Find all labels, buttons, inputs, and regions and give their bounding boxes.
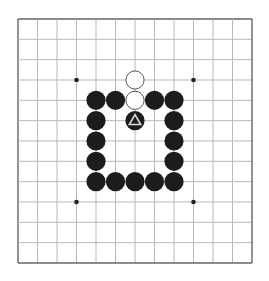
- black-stone: [145, 91, 164, 110]
- white-stone: [126, 91, 144, 109]
- black-stone: [164, 152, 183, 171]
- black-stone: [86, 131, 105, 150]
- black-stone: [86, 172, 105, 191]
- black-stone: [86, 152, 105, 171]
- board-grid: [18, 19, 252, 263]
- star-point: [191, 200, 196, 205]
- black-stone: [164, 111, 183, 130]
- go-board[interactable]: [0, 0, 269, 281]
- black-stone: [164, 131, 183, 150]
- star-point: [74, 200, 79, 205]
- black-stone: [86, 91, 105, 110]
- black-stone: [164, 172, 183, 191]
- black-stone: [106, 172, 125, 191]
- star-point: [191, 78, 196, 83]
- black-stone: [125, 111, 144, 130]
- black-stone: [86, 111, 105, 130]
- white-stone: [126, 71, 144, 89]
- black-stone: [106, 91, 125, 110]
- star-point: [74, 78, 79, 83]
- black-stone: [164, 91, 183, 110]
- black-stone: [125, 172, 144, 191]
- black-stone: [145, 172, 164, 191]
